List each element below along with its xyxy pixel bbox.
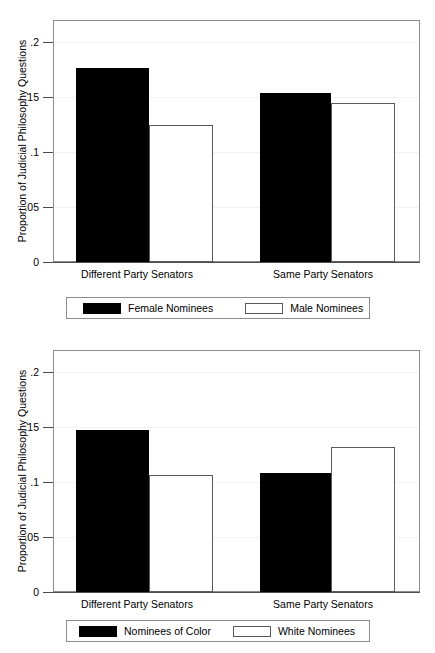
y-tick-label-02: .2 [0, 367, 39, 378]
bar-same-party-male [331, 103, 395, 262]
y-tick-mark-02 [43, 372, 53, 373]
bar-different-party-female [76, 68, 149, 262]
legend-entry-female: Female Nominees [83, 298, 213, 318]
legend-swatch-hollow-icon [233, 626, 271, 637]
gridline-015 [54, 427, 419, 428]
y-tick-label-005: .05 [0, 532, 39, 543]
legend-entry-male: Male Nominees [245, 298, 363, 318]
legend: Female Nominees Male Nominees [66, 297, 370, 319]
gridline-02 [54, 372, 419, 373]
legend-swatch-filled-icon [83, 303, 121, 314]
bar-same-party-white [331, 447, 395, 592]
legend-entry-nominees-of-color: Nominees of Color [79, 621, 211, 641]
x-axis-line [53, 592, 420, 593]
y-tick-mark-015 [43, 97, 53, 98]
y-tick-label-01: .1 [0, 477, 39, 488]
legend-entry-white-nominees: White Nominees [233, 621, 355, 641]
legend-label-male: Male Nominees [290, 302, 363, 314]
y-tick-mark-0 [43, 262, 53, 263]
y-tick-label-005: .05 [0, 202, 39, 213]
y-axis-title: Proportion of Judicial Philosophy Questi… [14, 20, 30, 262]
y-tick-label-015: .15 [0, 422, 39, 433]
chart-panel-race: Proportion of Judicial Philosophy Questi… [0, 330, 435, 653]
legend: Nominees of Color White Nominees [66, 620, 370, 642]
y-tick-mark-015 [43, 427, 53, 428]
y-tick-mark-0 [43, 592, 53, 593]
x-tick-label-different-party: Different Party Senators [53, 598, 221, 610]
y-tick-label-015: .15 [0, 92, 39, 103]
x-tick-label-same-party: Same Party Senators [245, 598, 401, 610]
y-tick-label-01: .1 [0, 147, 39, 158]
y-tick-label-0: 0 [0, 587, 39, 598]
legend-label-female: Female Nominees [128, 302, 213, 314]
y-tick-mark-005 [43, 207, 53, 208]
bar-different-party-male [149, 125, 213, 262]
y-tick-mark-02 [43, 42, 53, 43]
y-tick-mark-01 [43, 482, 53, 483]
bar-different-party-poc [76, 430, 149, 592]
bar-different-party-white [149, 475, 213, 592]
x-tick-label-same-party: Same Party Senators [245, 268, 401, 280]
y-tick-label-02: .2 [0, 37, 39, 48]
legend-label-white-nominees: White Nominees [278, 625, 355, 637]
plot-area [53, 350, 420, 592]
bar-same-party-poc [260, 473, 331, 592]
y-tick-label-0: 0 [0, 257, 39, 268]
chart-panel-gender: Proportion of Judicial Philosophy Questi… [0, 0, 435, 330]
x-tick-label-different-party: Different Party Senators [53, 268, 221, 280]
y-tick-mark-01 [43, 152, 53, 153]
legend-swatch-hollow-icon [245, 303, 283, 314]
y-tick-mark-005 [43, 537, 53, 538]
gridline-02 [54, 42, 419, 43]
bar-same-party-female [260, 93, 331, 262]
legend-label-nominees-of-color: Nominees of Color [124, 625, 211, 637]
x-axis-line [53, 262, 420, 263]
legend-swatch-filled-icon [79, 626, 117, 637]
y-axis-title: Proportion of Judicial Philosophy Questi… [14, 350, 30, 592]
plot-area [53, 20, 420, 262]
